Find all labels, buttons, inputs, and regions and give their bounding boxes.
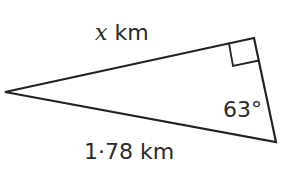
- side-label-x: x km: [95, 22, 149, 44]
- triangle-diagram: x km 63° 1·78 km: [0, 0, 286, 177]
- right-angle-marker: [229, 44, 259, 67]
- unit-km: km: [107, 20, 148, 45]
- angle-label: 63°: [223, 99, 262, 121]
- side-label-hypotenuse: 1·78 km: [84, 141, 174, 163]
- variable-x: x: [95, 20, 107, 45]
